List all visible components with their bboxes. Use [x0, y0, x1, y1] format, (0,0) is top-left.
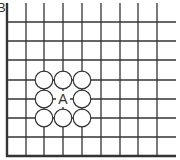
white-stone: [35, 90, 53, 108]
white-stone: [73, 109, 91, 127]
go-board: A: [0, 0, 180, 160]
white-stone: [54, 109, 72, 127]
point-label-a: A: [58, 91, 68, 107]
white-stone: [54, 71, 72, 89]
white-stone: [35, 71, 53, 89]
white-stone: [35, 109, 53, 127]
white-stone: [73, 90, 91, 108]
white-stone: [73, 71, 91, 89]
